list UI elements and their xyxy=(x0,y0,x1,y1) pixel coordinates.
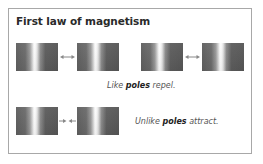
unlike-poles-caption: Unlike poles attract. xyxy=(135,117,219,126)
magnet-bar xyxy=(16,43,58,71)
magnet-bar xyxy=(77,107,119,135)
diagram-title: First law of magnetism xyxy=(16,15,150,27)
magnet-bar xyxy=(16,107,58,135)
repel-arrow-icon xyxy=(60,54,75,60)
magnet-bar xyxy=(77,43,119,71)
repel-arrow-icon xyxy=(185,54,200,60)
like-poles-caption: Like poles repel. xyxy=(107,81,175,90)
magnet-bar xyxy=(202,43,244,71)
attract-arrow-icon xyxy=(59,118,76,124)
magnet-bar xyxy=(141,43,183,71)
